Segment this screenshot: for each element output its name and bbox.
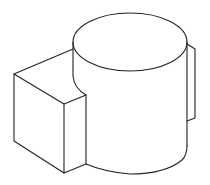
block-top — [14, 49, 73, 74]
block-front-face — [14, 74, 64, 173]
isometric-drawing — [0, 0, 210, 185]
cylinder-top — [73, 13, 187, 71]
right-tab — [187, 44, 195, 121]
cylinder-bottom-arc — [86, 146, 187, 174]
block-side-face — [64, 95, 86, 173]
